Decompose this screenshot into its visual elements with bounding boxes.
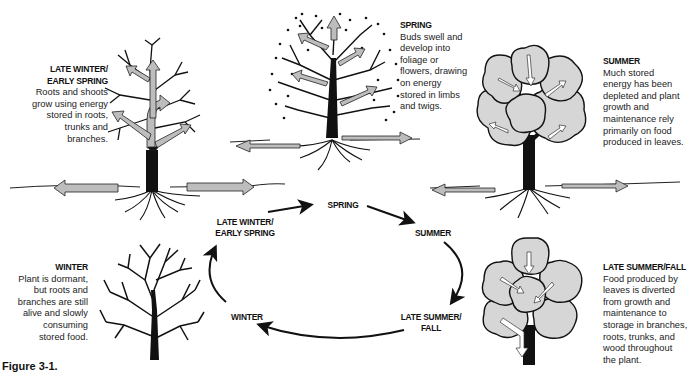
fall-tree-illustration — [482, 238, 581, 365]
text-line: storage in branches, — [603, 320, 698, 332]
cycle-label-line: LATE WINTER/ — [210, 217, 280, 228]
cycle-label-spring: SPRING — [320, 200, 366, 211]
stage-summer-description: SUMMER Much stored energy has been deple… — [603, 56, 698, 149]
stage-heading: LATE WINTER/ — [2, 64, 108, 76]
stage-heading: EARLY SPRING — [2, 76, 108, 88]
stage-spring-description: SPRING Buds swell and develop into folia… — [400, 20, 500, 113]
text-line: alive and slowly — [0, 308, 88, 320]
arrow-winter-to-late-winter — [210, 248, 226, 302]
text-line: from growth and — [603, 297, 698, 309]
text-line: trunks and — [2, 122, 108, 134]
stage-heading: SPRING — [400, 20, 500, 32]
energy-arrow-left — [54, 180, 118, 196]
text-line: grow using energy — [2, 99, 108, 111]
text-line: branches are still — [0, 297, 88, 309]
stage-late-winter-description: LATE WINTER/ EARLY SPRING Roots and shoo… — [2, 64, 108, 145]
text-line: Buds swell and — [400, 32, 500, 44]
energy-arrow-right — [187, 179, 254, 195]
text-line: stored food. — [0, 332, 88, 344]
arrow-fall-to-winter — [260, 325, 404, 338]
text-line: Food produced by — [603, 274, 698, 286]
cycle-label-winter: WINTER — [222, 312, 272, 323]
text-line: stored in limbs — [400, 90, 500, 102]
text-line: roots, trunks, and — [603, 332, 698, 344]
cycle-label-line: FALL — [395, 323, 467, 334]
text-line: develop into — [400, 43, 500, 55]
figure-caption: Figure 3-1. — [2, 360, 58, 372]
text-line: foliage or — [400, 55, 500, 67]
stage-winter-description: WINTER Plant is dormant, but roots and b… — [0, 262, 88, 343]
text-line: consuming — [0, 320, 88, 332]
cycle-label-late-winter: LATE WINTER/ EARLY SPRING — [210, 217, 280, 238]
stage-late-summer-description: LATE SUMMER/FALL Food produced by leaves… — [603, 262, 698, 366]
text-line: Plant is dormant, — [0, 274, 88, 286]
text-line: Much stored — [603, 68, 698, 80]
winter-tree-illustration — [100, 244, 204, 360]
cycle-label-line: LATE SUMMER/ — [395, 312, 467, 323]
arrow-summer-to-fall — [444, 242, 462, 302]
text-line: depleted and plant — [603, 91, 698, 103]
arrow-late-winter-to-spring — [268, 205, 310, 212]
text-line: primarily on food — [603, 126, 698, 138]
text-line: produced in leaves. — [603, 137, 698, 149]
text-line: energy has been — [603, 79, 698, 91]
tree-cycle-illustration — [0, 0, 698, 377]
spring-tree-illustration — [230, 13, 420, 170]
text-line: maintenance rely — [603, 114, 698, 126]
stage-heading: WINTER — [0, 262, 88, 274]
stage-heading: LATE SUMMER/FALL — [603, 262, 698, 274]
text-line: flowers, drawing — [400, 66, 500, 78]
text-line: branches. — [2, 134, 108, 146]
cycle-label-late-summer: LATE SUMMER/ FALL — [395, 312, 467, 333]
text-line: but roots and — [0, 285, 88, 297]
text-line: stored in roots, — [2, 110, 108, 122]
text-line: Roots and shoots — [2, 87, 108, 99]
text-line: on energy — [400, 78, 500, 90]
cycle-label-summer: SUMMER — [405, 228, 461, 239]
text-line: growth and — [603, 102, 698, 114]
cycle-label-line: EARLY SPRING — [210, 228, 280, 239]
text-line: leaves is diverted — [603, 285, 698, 297]
stage-heading: SUMMER — [603, 56, 698, 68]
text-line: wood throughout — [603, 343, 698, 355]
text-line: maintenance to — [603, 308, 698, 320]
text-line: the plant. — [603, 355, 698, 367]
arrow-spring-to-summer — [367, 206, 412, 222]
text-line: and twigs. — [400, 101, 500, 113]
